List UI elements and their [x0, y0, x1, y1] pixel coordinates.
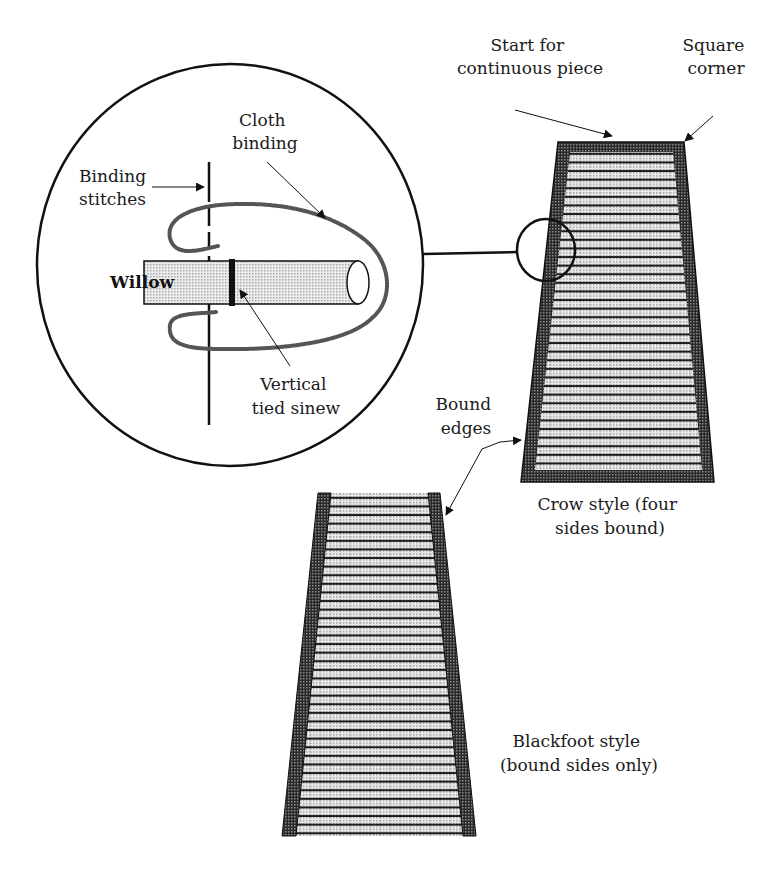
start-for-continuous-piece-arrow	[515, 110, 612, 136]
bound-edges-arrow-crow	[482, 440, 521, 449]
binding-styles-diagram: Binding stitches Cloth binding Willow Ve…	[0, 0, 783, 884]
willow-rod	[144, 259, 369, 306]
crow-style-caption: Crow style (four sides bound)	[537, 494, 682, 538]
detail-view: Binding stitches Cloth binding Willow Ve…	[37, 64, 423, 466]
square-corner-label: Square corner	[682, 35, 749, 78]
crow-style-shape	[517, 142, 714, 482]
bound-edges-arrow-blackfoot	[446, 449, 482, 515]
blackfoot-style-shape	[282, 493, 476, 836]
bound-edges-label: Bound edges	[436, 394, 497, 438]
blackfoot-style-caption: Blackfoot style (bound sides only)	[500, 731, 658, 775]
willow-label: Willow	[109, 272, 175, 292]
start-for-continuous-piece-label: Start for continuous piece	[457, 35, 603, 78]
square-corner-arrow	[685, 116, 713, 141]
detail-connector-line	[423, 252, 518, 254]
